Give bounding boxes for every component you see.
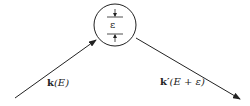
incoming-arg: (E) bbox=[54, 77, 69, 88]
outgoing-k: k′ bbox=[160, 76, 170, 87]
diagram-canvas: ε k(E) k′(E + ε) bbox=[0, 0, 250, 106]
epsilon-text: ε bbox=[110, 19, 115, 30]
incoming-arrow bbox=[15, 40, 96, 98]
incoming-k: k bbox=[47, 77, 54, 88]
epsilon-label: ε bbox=[110, 19, 115, 30]
outgoing-momentum-label: k′(E + ε) bbox=[160, 76, 205, 87]
outgoing-arg: (E + ε) bbox=[170, 76, 205, 87]
diagram-svg bbox=[0, 0, 250, 106]
incoming-momentum-label: k(E) bbox=[47, 77, 69, 88]
outgoing-arrow bbox=[136, 38, 240, 99]
